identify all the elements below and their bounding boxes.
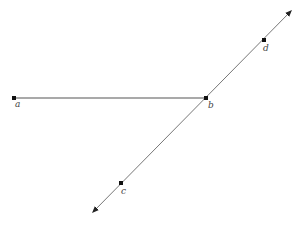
geometry-diagram: abdc — [0, 0, 299, 228]
label-b: b — [208, 100, 214, 110]
label-d: d — [263, 43, 269, 53]
label-c: c — [121, 186, 126, 196]
points-layer — [12, 38, 266, 185]
point-d — [262, 38, 266, 42]
labels-layer: abdc — [15, 43, 269, 196]
point-c — [119, 181, 123, 185]
label-a: a — [15, 99, 20, 109]
